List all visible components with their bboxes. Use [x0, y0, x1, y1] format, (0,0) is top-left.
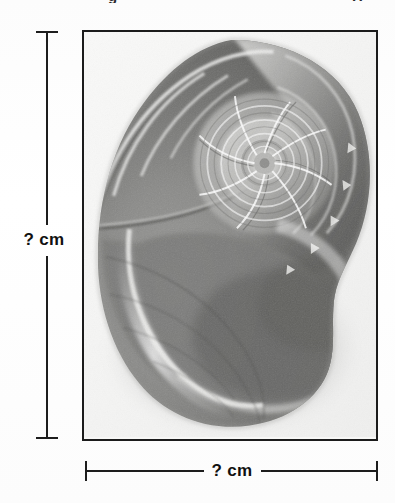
height-dimension-line-lower: [46, 256, 48, 438]
shell-photo-frame: [82, 30, 378, 441]
cut-off-text-left-fragment: g: [108, 0, 118, 3]
width-dimension-label: ? cm: [196, 459, 268, 483]
height-dimension-line-upper: [46, 33, 48, 225]
diagram-page: g H: [0, 0, 395, 503]
width-dimension-tick-right: [376, 461, 378, 481]
height-dimension-label: ? cm: [8, 228, 80, 252]
nautilus-shell-photograph: [84, 32, 376, 437]
cut-off-heading-text: g H: [0, 0, 395, 3]
width-dimension-line-left: [87, 470, 204, 472]
width-dimension-line-right: [261, 470, 378, 472]
cut-off-text-right-fragment: H: [352, 0, 363, 3]
height-dimension-tick-bottom: [36, 437, 58, 439]
